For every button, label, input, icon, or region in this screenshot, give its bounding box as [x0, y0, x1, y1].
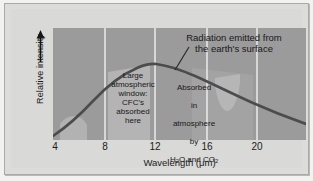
x-axis-label-text: Wavelength ( — [143, 157, 199, 168]
y-axis: Relative intensity — [25, 28, 53, 140]
x-axis-label-unit: μm) — [199, 157, 216, 168]
annotation-atmospheric-window: Large atmospheric window: CFC's absorbed… — [107, 72, 159, 126]
annotation-radiation-emitted: Radiation emitted from the earth's surfa… — [159, 33, 309, 54]
x-tick-20: 20 — [251, 141, 262, 152]
x-tick-16: 16 — [201, 141, 212, 152]
annotation-absorbed-line3: atmosphere — [159, 120, 229, 129]
x-axis-ticks: 4 8 12 16 20 — [53, 141, 306, 155]
y-axis-label: Relative intensity — [35, 23, 45, 115]
figure-root: Relative intensity — [0, 0, 313, 181]
x-tick-12: 12 — [149, 141, 160, 152]
x-tick-4: 4 — [52, 141, 58, 152]
x-tick-8: 8 — [102, 141, 108, 152]
annotation-absorbed-line2: in — [159, 102, 229, 111]
x-axis-label: Wavelength (μm) — [53, 157, 306, 168]
figure-outer-frame: Relative intensity — [4, 3, 309, 175]
figure-inner-panel: Relative intensity — [11, 9, 302, 168]
annotation-absorbed-line1: Absorbed — [159, 84, 229, 93]
